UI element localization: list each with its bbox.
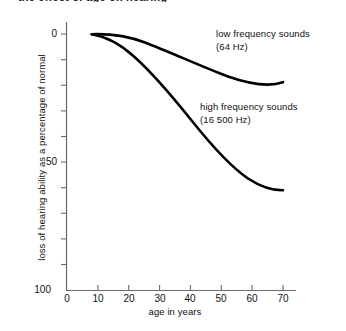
hearing-loss-chart-figure: the effect of age on hearing: [0, 0, 346, 331]
x-tick-label-30: 30: [148, 293, 172, 304]
x-tick-label-40: 40: [178, 293, 202, 304]
annotation-low-frequency: low frequency sounds (64 Hz): [216, 28, 310, 53]
annotation-high-frequency-line1: high frequency sounds: [200, 101, 298, 112]
annotation-high-frequency-line2: (16 500 Hz): [200, 114, 298, 127]
x-axis-title: age in years: [67, 306, 283, 317]
x-tick-label-50: 50: [209, 293, 233, 304]
annotation-high-frequency: high frequency sounds (16 500 Hz): [200, 101, 298, 126]
x-tick-label-60: 60: [240, 293, 264, 304]
y-axis-ticks: [61, 34, 67, 264]
annotation-low-frequency-line1: low frequency sounds: [216, 28, 310, 39]
x-axis-ticks: [98, 285, 283, 291]
annotation-low-frequency-line2: (64 Hz): [216, 41, 310, 54]
x-tick-label-10: 10: [86, 293, 110, 304]
y-axis-title: loss of hearing ability as a percentage …: [36, 24, 47, 292]
x-tick-label-20: 20: [117, 293, 141, 304]
x-tick-label-70: 70: [271, 293, 295, 304]
x-tick-label-0: 0: [55, 293, 79, 304]
